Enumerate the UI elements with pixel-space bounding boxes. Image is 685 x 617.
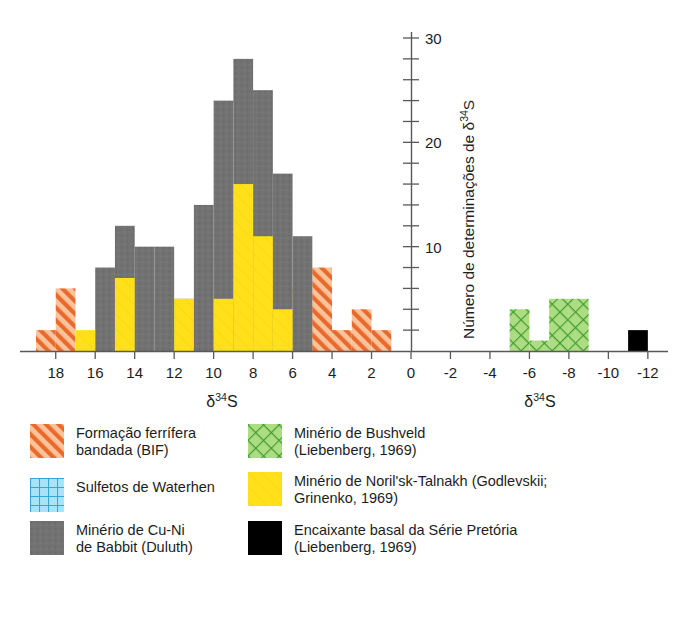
legend-item-bif[interactable]: Formação ferrífera bandada (BIF) <box>30 424 196 458</box>
bar-norilsk-12 <box>174 299 194 351</box>
bar-bif-5 <box>312 268 332 351</box>
bar-norilsk-15 <box>115 278 135 351</box>
y-tick-label-20: 20 <box>425 134 442 151</box>
y-axis-title: Número de determinações de δ34S <box>458 100 477 339</box>
bar-bushveld--6 <box>529 341 549 351</box>
x-axis-title-left: δ34S <box>206 391 237 410</box>
bar-bushveld--8 <box>569 299 589 351</box>
x-tick-label-left-panel-12: 12 <box>166 364 183 381</box>
x-tick-label-right-panel--10: -10 <box>598 364 620 381</box>
legend-item-babbit[interactable]: Minério de Cu-Ni de Babbit (Duluth) <box>30 521 193 555</box>
x-tick-label-left-panel-14: 14 <box>126 364 143 381</box>
bar-babbit-16 <box>95 268 115 351</box>
legend-label-pretoria: Encaixante basal da Série Pretória (Lieb… <box>294 521 517 555</box>
x-tick-label-right-panel--4: -4 <box>483 364 496 381</box>
bar-norilsk-10 <box>214 299 234 351</box>
x-tick-label-left-panel-6: 6 <box>288 364 296 381</box>
legend-label-bushveld: Minério de Bushveld (Liebenberg, 1969) <box>294 424 425 458</box>
bar-pretoria--11 <box>628 330 648 351</box>
bar-bif-18 <box>56 288 76 351</box>
x-tick-label-right-panel--6: -6 <box>523 364 536 381</box>
legend-item-norilsk[interactable]: Minério de Noril'sk-Talnakh (Godlevskii;… <box>248 472 547 506</box>
legend-label-babbit: Minério de Cu-Ni de Babbit (Duluth) <box>76 521 193 555</box>
bar-babbit-6 <box>293 236 313 351</box>
bar-babbit-14 <box>135 247 155 351</box>
x-tick-label-right-panel--2: -2 <box>444 364 457 381</box>
x-axis-title-right: δ34S <box>524 391 555 410</box>
bar-bif-4 <box>332 330 352 351</box>
x-tick-label-left-panel-2: 2 <box>367 364 375 381</box>
bar-norilsk-7 <box>273 309 293 351</box>
yellow-solid-swatch <box>248 472 282 506</box>
bar-norilsk-9 <box>233 184 253 351</box>
blue-grid-swatch <box>30 478 64 512</box>
bar-bushveld--7 <box>549 299 569 351</box>
green-cross-hatch-swatch <box>248 424 282 458</box>
orange-diagonal-hatch-swatch <box>30 424 64 458</box>
x-tick-label-right-panel--8: -8 <box>562 364 575 381</box>
bar-bif-19 <box>36 330 56 351</box>
series-bushveld <box>510 299 589 351</box>
x-tick-label-right-panel--12: -12 <box>637 364 659 381</box>
bar-babbit-11 <box>194 205 214 351</box>
legend-label-bif: Formação ferrífera bandada (BIF) <box>76 424 196 458</box>
svg-text:Número de determinações de δ34: Número de determinações de δ34S <box>458 100 477 339</box>
x-tick-label-left-panel-4: 4 <box>328 364 336 381</box>
bar-bushveld--5 <box>510 309 530 351</box>
y-tick-label-10: 10 <box>425 239 442 256</box>
x-tick-label-left-panel-10: 10 <box>205 364 222 381</box>
series-pretoria <box>628 330 648 351</box>
bar-norilsk-17 <box>75 330 95 351</box>
chart-canvas: 102030 181614121086420-2-4-6-8-10-12δ34S… <box>0 0 685 416</box>
gray-solid-swatch <box>30 521 64 555</box>
bar-norilsk-8 <box>253 236 273 351</box>
legend-label-waterhen: Sulfetos de Waterhen <box>76 478 215 496</box>
black-solid-swatch <box>248 521 282 555</box>
x-tick-label-left-panel-8: 8 <box>249 364 257 381</box>
x-tick-label-left-panel-18: 18 <box>47 364 64 381</box>
legend-item-waterhen[interactable]: Sulfetos de Waterhen <box>30 478 215 512</box>
svg-text:δ34S: δ34S <box>206 391 237 410</box>
legend-label-norilsk: Minério de Noril'sk-Talnakh (Godlevskii;… <box>294 472 547 506</box>
x-tick-label-left-panel-16: 16 <box>87 364 104 381</box>
bar-bif-3 <box>352 309 372 351</box>
legend: Formação ferrífera bandada (BIF) <box>0 416 685 617</box>
legend-item-pretoria[interactable]: Encaixante basal da Série Pretória (Lieb… <box>248 521 517 555</box>
y-tick-label-30: 30 <box>425 30 442 47</box>
bar-babbit-13 <box>154 247 174 351</box>
legend-item-bushveld[interactable]: Minério de Bushveld (Liebenberg, 1969) <box>248 424 425 458</box>
bar-bif-2 <box>372 330 392 351</box>
bars-layer <box>36 59 648 351</box>
x-tick-label-left-panel-0: 0 <box>407 364 415 381</box>
svg-text:δ34S: δ34S <box>524 391 555 410</box>
